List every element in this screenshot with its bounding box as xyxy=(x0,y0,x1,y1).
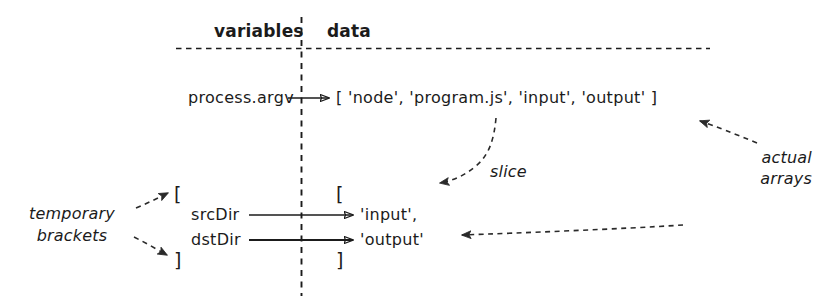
annotation-temporary-brackets-line1: temporary xyxy=(12,206,132,222)
data-open-bracket: [ xyxy=(336,185,343,204)
variable-label-process-argv: process.argv xyxy=(188,90,294,106)
diagram-strokes xyxy=(0,0,822,306)
value-dstdir-output: 'output' xyxy=(360,232,424,248)
annotation-temporary-brackets-line2: brackets xyxy=(12,228,132,244)
actual-arrays-arrow-top xyxy=(700,121,757,143)
temporary-close-bracket: ] xyxy=(174,251,181,270)
temporary-open-bracket: [ xyxy=(174,185,181,204)
column-header-data: data xyxy=(327,23,371,40)
annotation-slice: slice xyxy=(490,164,527,180)
temporary-brackets-arrow-open xyxy=(136,193,168,208)
variable-label-dstdir: dstDir xyxy=(191,232,241,248)
data-close-bracket: ] xyxy=(336,251,343,270)
variable-label-srcdir: srcDir xyxy=(191,207,240,223)
annotation-actual-arrays-line2: arrays xyxy=(700,171,812,187)
annotation-actual-arrays-line1: actual xyxy=(700,150,812,166)
value-process-argv-array: [ 'node', 'program.js', 'input', 'output… xyxy=(336,90,657,106)
value-srcdir-input: 'input', xyxy=(360,207,417,223)
temporary-brackets-arrow-close xyxy=(134,237,167,255)
column-header-variables: variables xyxy=(214,23,304,40)
diagram-canvas: variables data process.argv [ 'node', 'p… xyxy=(0,0,822,306)
slice-callout-arrow xyxy=(440,118,496,183)
actual-arrays-arrow-bottom xyxy=(462,225,683,235)
